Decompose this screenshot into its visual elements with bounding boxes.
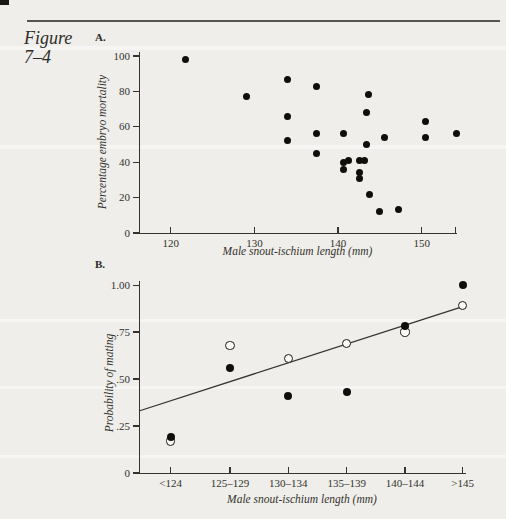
plot-a-y-tick — [133, 162, 139, 163]
plot-a-y-tick-label: 20 — [97, 191, 130, 204]
data-point-filled — [167, 433, 175, 441]
data-point-filled — [459, 281, 467, 289]
plot-a-x-tick-label: 130 — [234, 237, 274, 250]
data-point-filled — [343, 388, 351, 396]
plot-b-y-tick-label: .75 — [97, 326, 130, 339]
data-point-filled — [226, 364, 234, 372]
plot-b-x-tick-label: <124 — [141, 477, 201, 490]
plot-a-x-tick-label: 150 — [402, 237, 442, 250]
plot-a-y-tick — [133, 197, 139, 198]
scan-streak — [0, 46, 506, 50]
plot-a-y-tick — [133, 91, 139, 92]
plot-a-y-tick-label: 60 — [97, 120, 130, 133]
data-point-open — [225, 341, 234, 350]
data-point — [284, 76, 291, 83]
figure-label: Figure 7–4 — [24, 29, 72, 67]
plot-b-y-tick-label: .25 — [97, 420, 130, 433]
data-point — [363, 141, 370, 148]
plot-b-xlabel: Male snout-ischium length (mm) — [139, 493, 465, 506]
plot-a-axes — [139, 52, 457, 234]
figure-label-number: 7–4 — [24, 48, 72, 67]
scan-corner-mark — [0, 0, 9, 5]
plot-a-x-tick-label: 120 — [151, 237, 191, 250]
plot-b-x-tick-label: 125–129 — [200, 477, 260, 490]
regression-line — [139, 281, 465, 473]
data-point — [376, 208, 383, 215]
top-rule — [27, 20, 500, 22]
plot-b-x-tick-label: 130–134 — [258, 477, 318, 490]
plot-b-x-tick-label: 135–139 — [317, 477, 377, 490]
panel-a-label: A. — [95, 31, 106, 43]
data-point — [340, 130, 347, 137]
data-point — [243, 93, 250, 100]
plot-a-x-tick — [254, 227, 255, 233]
plot-a-y-tick — [133, 55, 139, 56]
plot-b-y-tick-label: .50 — [97, 373, 130, 386]
data-point — [422, 118, 429, 125]
plot-b-x-tick-label: 140–144 — [375, 477, 435, 490]
plot-a-y-tick-label: 100 — [97, 50, 130, 63]
plot-a-y-tick — [133, 232, 139, 233]
plot-a-y-tick-label: 0 — [97, 227, 130, 240]
plot-b-x-tick-label: >145 — [433, 477, 493, 490]
panel-b-label: B. — [95, 258, 105, 270]
plot-a-y-tick-label: 40 — [97, 156, 130, 169]
plot-a-x-tick — [337, 227, 338, 233]
figure-label-word: Figure — [24, 29, 72, 48]
data-point — [453, 130, 460, 137]
plot-a-x-tick — [421, 227, 422, 233]
data-point — [313, 150, 320, 157]
data-point — [313, 83, 320, 90]
data-point-open — [284, 354, 293, 363]
plot-a-x-tick — [170, 227, 171, 233]
plot-a-x-tick-label: 140 — [318, 237, 358, 250]
data-point — [356, 175, 363, 182]
data-point — [345, 157, 352, 164]
plot-a-y-tick — [133, 126, 139, 127]
data-point — [381, 134, 388, 141]
plot-b-y-tick-label: 0 — [97, 467, 130, 480]
plot-b-y-tick-label: 1.00 — [97, 279, 130, 292]
plot-a-y-tick-label: 80 — [97, 85, 130, 98]
data-point — [422, 134, 429, 141]
data-point — [366, 191, 373, 198]
plot-a-axis-end-tick — [455, 227, 456, 233]
